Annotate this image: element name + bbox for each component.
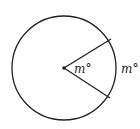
arc-label: m° [121,62,138,76]
center-point [62,66,66,70]
central-angle-label: m° [74,62,91,76]
circle-diagram: m° m° [0,0,140,129]
